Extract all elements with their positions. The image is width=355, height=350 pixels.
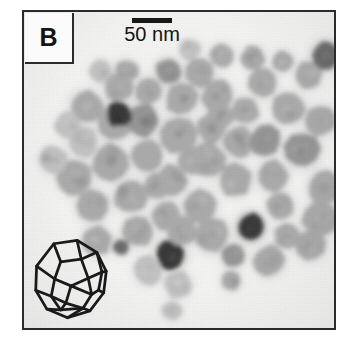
panel-label: B <box>39 25 57 50</box>
panel-label-box: B <box>25 13 74 64</box>
tem-figure-panel: B 50 nm <box>0 0 355 350</box>
scale-bar-label: 50 nm <box>102 24 202 45</box>
scale-bar: 50 nm <box>102 18 202 45</box>
micrograph-frame: B 50 nm <box>22 10 336 330</box>
truncated-octahedron-inset-icon <box>28 236 114 322</box>
